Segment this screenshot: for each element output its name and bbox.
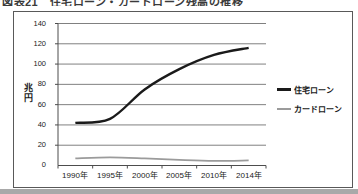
figure-title-clipped: 図表21 住宅ローン・カードローン残高の推移	[2, 0, 356, 6]
housing-loan-line	[75, 48, 248, 123]
housing-loan-line-swatch	[277, 88, 291, 90]
y-tick-label: 100	[14, 59, 46, 69]
y-tick-label: 20	[14, 140, 46, 150]
legend-item-housing-loan: 住宅ローン	[277, 84, 342, 95]
legend: 住宅ローン カードローン	[277, 84, 342, 122]
y-axis-title: 兆円	[22, 83, 35, 103]
chart-frame: 140 120 100 80 60 40 20 0 兆円 1990年 1995年…	[13, 11, 353, 188]
legend-item-card-loan: カードローン	[277, 103, 342, 114]
y-tick-label: 0	[14, 160, 46, 170]
y-tick-label: 140	[14, 19, 46, 29]
y-tick-label: 40	[14, 120, 46, 130]
card-loan-line	[75, 157, 248, 161]
x-tick-label: 2014年	[227, 171, 271, 181]
page-edge-shadow	[0, 189, 358, 194]
y-tick-label: 120	[14, 39, 46, 49]
legend-label: カードローン	[294, 103, 342, 114]
figure-title-text: 図表21 住宅ローン・カードローン残高の推移	[2, 0, 356, 6]
legend-label: 住宅ローン	[294, 84, 334, 95]
card-loan-line-swatch	[277, 108, 291, 110]
